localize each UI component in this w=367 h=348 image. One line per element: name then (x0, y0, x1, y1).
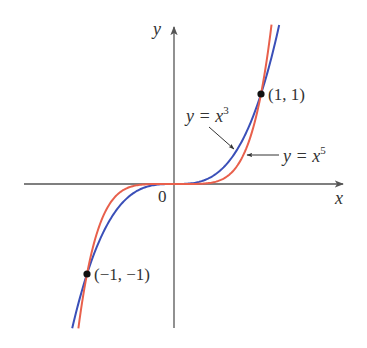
annotation-y-x5-base: y = x (281, 146, 320, 166)
x-axis-label: x (334, 188, 343, 208)
pointer-arrow-y-x3 (209, 127, 234, 149)
origin-label: 0 (158, 187, 167, 206)
annotation-y-x5-exp: 5 (320, 144, 326, 156)
point-label-neg1-neg1: (−1, −1) (94, 265, 150, 284)
y-axis-label: y (151, 19, 161, 39)
point-1-1 (257, 90, 264, 97)
annotation-y-x3: y = x3 (184, 104, 229, 126)
annotation-y-x5: y = x5 (281, 144, 326, 166)
annotation-y-x3-base: y = x (184, 106, 223, 126)
annotation-y-x3-exp: 3 (223, 104, 229, 116)
point-label-1-1: (1, 1) (268, 85, 305, 104)
power-functions-chart: (1, 1) (−1, −1) y x 0 y = x3 y = x5 (0, 0, 367, 348)
point-neg1-neg1 (83, 270, 90, 277)
